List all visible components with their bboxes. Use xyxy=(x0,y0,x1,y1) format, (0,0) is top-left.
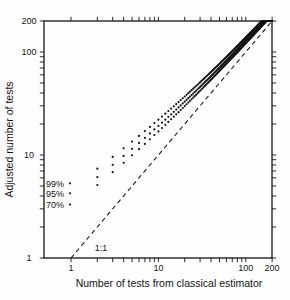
x-tick-label: 200 xyxy=(265,263,280,273)
y-tick-label: 10 xyxy=(24,150,34,160)
y-tick-label: 1 xyxy=(26,253,31,263)
x-tick-label: 10 xyxy=(153,263,163,273)
chart-svg: 110100200110100200 1:1 99% 95% 70% Numbe… xyxy=(0,0,290,300)
x-tick-label: 1 xyxy=(68,263,73,273)
legend-marker-99 xyxy=(69,182,71,184)
plot-border xyxy=(44,21,272,258)
legend-label-99: 99% xyxy=(46,179,64,189)
legend-label-70: 70% xyxy=(46,200,64,210)
x-axis-label: Number of tests from classical estimator xyxy=(76,277,263,289)
x-tick-label: 100 xyxy=(238,263,253,273)
y-tick-label: 200 xyxy=(21,16,36,26)
y-axis-label: Adjusted number of tests xyxy=(3,81,15,197)
identity-line-label: 1:1 xyxy=(95,243,108,253)
legend: 99% 95% 70% xyxy=(46,179,71,210)
legend-marker-70 xyxy=(69,203,71,205)
scatter-plot-figure: 110100200110100200 1:1 99% 95% 70% Numbe… xyxy=(0,0,290,300)
y-axis-ticks xyxy=(40,21,276,258)
y-tick-label: 100 xyxy=(21,47,36,57)
series-70-points xyxy=(96,20,273,186)
legend-marker-95 xyxy=(69,192,71,194)
plot-area: 110100200110100200 xyxy=(21,16,279,273)
legend-label-95: 95% xyxy=(46,189,64,199)
identity-line xyxy=(71,21,272,258)
